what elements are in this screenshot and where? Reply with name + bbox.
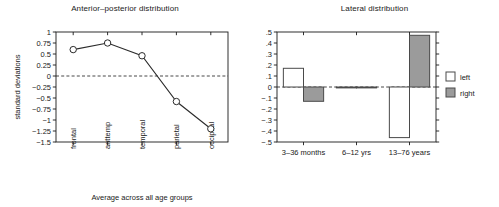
x-category-label: 3–36 months	[282, 148, 326, 157]
y-tick-label: −.2	[261, 105, 272, 114]
x-category-label: parietal	[172, 124, 181, 149]
bar-right[interactable]	[304, 87, 324, 101]
y-tick-label: .3	[266, 50, 272, 59]
y-tick-label: 0.25	[36, 61, 51, 70]
y-tick-label: −.1	[261, 94, 272, 103]
bar-left[interactable]	[389, 87, 409, 138]
bar-right[interactable]	[357, 87, 377, 88]
y-tick-label: .5	[266, 28, 272, 37]
data-point-marker[interactable]	[173, 98, 179, 104]
bar-left[interactable]	[283, 68, 303, 87]
y-tick-label: .1	[266, 72, 272, 81]
bar-right[interactable]	[410, 35, 430, 87]
x-category-label: frontal	[69, 128, 78, 149]
y-tick-label: −.4	[261, 127, 272, 136]
x-category-label: anttemp	[103, 122, 112, 149]
x-category-label: temporal	[138, 119, 147, 149]
y-tick-label: −0.25	[32, 83, 51, 92]
y-tick-label: −.5	[261, 138, 272, 147]
y-axis-title: standard deviations	[13, 54, 22, 119]
panel-right-title: Lateral distribution	[250, 4, 499, 13]
panel-anterior-posterior: Anterior–posterior distribution 10.750.5…	[0, 0, 250, 207]
x-category-label: 13–76 years	[389, 148, 431, 157]
bar-left[interactable]	[336, 87, 356, 88]
y-tick-label: .2	[266, 61, 272, 70]
figure-container: Anterior–posterior distribution 10.750.5…	[0, 0, 499, 207]
line-chart-svg: 10.750.50.250−0.25−0.5−0.75−1−1.25−1.5fr…	[0, 0, 250, 207]
data-point-marker[interactable]	[104, 40, 110, 46]
bar-chart-svg: .5.4.3.2.10−.1−.2−.3−.4−.53–36 months6–1…	[250, 0, 499, 207]
y-tick-label: −1.25	[32, 127, 51, 136]
y-tick-label: 0.75	[36, 39, 51, 48]
y-tick-label: 1	[47, 28, 51, 37]
legend-swatch-right	[446, 88, 455, 97]
x-axis-title: Average across all age groups	[91, 193, 192, 202]
y-tick-label: .4	[266, 39, 272, 48]
legend-label-right: right	[460, 89, 476, 98]
panel-left-title: Anterior–posterior distribution	[0, 4, 250, 13]
y-tick-label: −0.75	[32, 105, 51, 114]
legend-label-left: left	[460, 73, 471, 82]
y-tick-label: −1.5	[36, 138, 51, 147]
y-tick-label: 0.5	[41, 50, 51, 59]
y-tick-label: 0	[47, 72, 51, 81]
y-tick-label: −1	[42, 116, 51, 125]
x-category-label: 6–12 yrs	[342, 148, 371, 157]
data-point-marker[interactable]	[70, 46, 76, 52]
y-tick-label: 0	[268, 83, 272, 92]
data-point-marker[interactable]	[208, 126, 214, 132]
y-tick-label: −.3	[261, 116, 272, 125]
panel-lateral: Lateral distribution .5.4.3.2.10−.1−.2−.…	[250, 0, 499, 207]
data-point-marker[interactable]	[139, 53, 145, 59]
legend-swatch-left	[446, 72, 455, 81]
y-tick-label: −0.5	[36, 94, 51, 103]
